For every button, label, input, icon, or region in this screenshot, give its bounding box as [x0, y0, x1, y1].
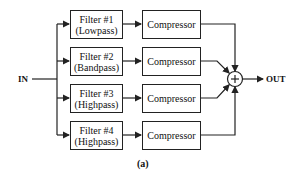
- filter-4-box: Filter #4 (Highpass): [70, 121, 123, 150]
- filter-4-name: Filter #4: [79, 125, 113, 136]
- filter-1-box: Filter #1 (Lowpass): [70, 10, 123, 39]
- figure-caption: (a): [137, 158, 149, 169]
- filter-2-box: Filter #2 (Bandpass): [70, 47, 123, 76]
- output-label: OUT: [266, 74, 286, 84]
- filter-1-name: Filter #1: [79, 14, 113, 25]
- filter-3-type: (Highpass): [75, 99, 119, 110]
- summer-node: +: [227, 71, 243, 87]
- filter-2-name: Filter #2: [79, 51, 113, 62]
- input-label: IN: [18, 74, 28, 84]
- compressor-2-label: Compressor: [147, 56, 195, 67]
- compressor-1-label: Compressor: [147, 19, 195, 30]
- compressor-4-label: Compressor: [147, 130, 195, 141]
- filter-4-type: (Highpass): [75, 136, 119, 147]
- filter-3-box: Filter #3 (Highpass): [70, 84, 123, 113]
- filter-2-type: (Bandpass): [74, 62, 119, 73]
- compressor-3-box: Compressor: [142, 84, 201, 113]
- compressor-4-box: Compressor: [142, 121, 201, 150]
- filter-3-name: Filter #3: [79, 88, 113, 99]
- compressor-3-label: Compressor: [147, 93, 195, 104]
- compressor-1-box: Compressor: [142, 10, 201, 39]
- filter-1-type: (Lowpass): [75, 25, 117, 36]
- compressor-2-box: Compressor: [142, 47, 201, 76]
